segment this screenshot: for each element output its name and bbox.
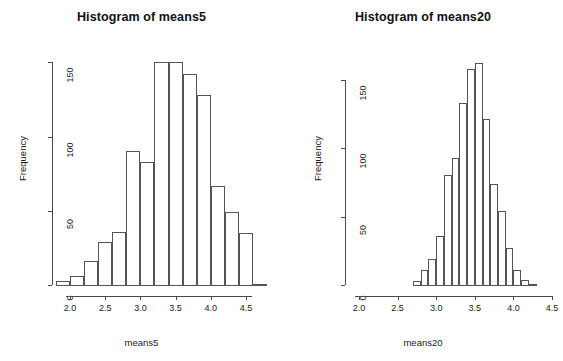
x-axis-tick: [246, 296, 247, 300]
x-axis-tick: [211, 296, 212, 300]
y-axis-tick: [48, 211, 52, 212]
x-axis-tick-label: 2.0: [345, 303, 373, 313]
x-axis-tick-label: 2.0: [56, 303, 84, 313]
histogram-bar: [452, 158, 460, 285]
plot-title-means5: Histogram of means5: [0, 10, 283, 24]
histogram-bar: [498, 211, 506, 285]
histogram-bar: [444, 175, 452, 285]
y-axis-line: [345, 80, 346, 285]
histogram-bar: [70, 276, 84, 285]
histogram-bar: [84, 261, 98, 285]
x-axis-tick-label: 3.5: [461, 303, 489, 313]
figure-canvas: Histogram of means5 Frequency means5 050…: [0, 0, 563, 361]
x-axis-tick: [398, 296, 399, 300]
x-axis-tick: [70, 296, 71, 300]
histogram-bar: [126, 151, 140, 285]
x-axis-tick: [105, 296, 106, 300]
histogram-bar: [140, 162, 154, 285]
x-axis-tick-label: 4.5: [232, 303, 260, 313]
y-axis-tick: [341, 148, 345, 149]
y-axis-line: [52, 62, 53, 285]
x-axis-tick-label: 3.0: [422, 303, 450, 313]
histogram-bar: [225, 212, 239, 285]
x-axis-tick: [176, 296, 177, 300]
x-axis-tick: [140, 296, 141, 300]
y-axis-tick: [341, 80, 345, 81]
histogram-bar: [98, 242, 112, 285]
histogram-bar: [459, 103, 467, 285]
y-axis-tick: [48, 62, 52, 63]
x-axis-tick-label: 3.0: [126, 303, 154, 313]
histogram-bar: [475, 63, 483, 285]
y-axis-tick-label: 150: [357, 80, 369, 106]
x-axis-tick-label: 2.5: [91, 303, 119, 313]
y-axis-tick-label: 100: [64, 137, 76, 163]
x-axis-tick: [552, 296, 553, 300]
histogram-bar: [436, 236, 444, 285]
x-axis-line: [66, 296, 252, 297]
plot-baseline-means20: [413, 285, 537, 286]
histogram-bar: [467, 69, 475, 285]
y-axis-tick-label: 150: [64, 62, 76, 88]
x-axis-line: [355, 296, 552, 297]
x-axis-label-means5: means5: [0, 337, 283, 348]
histogram-bar: [490, 184, 498, 285]
histogram-bar: [506, 248, 514, 285]
histogram-bar: [239, 233, 253, 285]
histogram-bar: [183, 74, 197, 285]
plot-panel-means5: Histogram of means5 Frequency means5 050…: [0, 0, 283, 361]
y-axis-tick: [48, 285, 52, 286]
histogram-bar: [483, 119, 491, 285]
bar-series-means20: [283, 55, 563, 285]
x-axis-tick: [436, 296, 437, 300]
histogram-bar: [428, 259, 436, 285]
bar-series-means5: [0, 55, 283, 285]
histogram-bar: [169, 62, 183, 285]
y-axis-tick: [341, 217, 345, 218]
histogram-bar: [421, 270, 429, 285]
x-axis-tick: [359, 296, 360, 300]
x-axis-tick-label: 4.5: [538, 303, 563, 313]
histogram-bar: [112, 232, 126, 285]
x-axis-tick: [513, 296, 514, 300]
x-axis-tick-label: 3.5: [162, 303, 190, 313]
x-axis-tick: [475, 296, 476, 300]
histogram-bar: [513, 270, 521, 285]
histogram-bar: [211, 186, 225, 285]
x-axis-tick-label: 4.0: [197, 303, 225, 313]
x-axis-label-means20: means20: [283, 337, 563, 348]
x-axis-tick-label: 4.0: [499, 303, 527, 313]
y-axis-tick-label: 50: [357, 217, 369, 243]
x-axis-tick-label: 2.5: [384, 303, 412, 313]
plot-title-means20: Histogram of means20: [283, 10, 563, 24]
histogram-bar: [197, 95, 211, 285]
y-axis-tick-label: 50: [64, 211, 76, 237]
y-axis-tick: [341, 285, 345, 286]
plot-baseline-means5: [56, 285, 267, 286]
histogram-bar: [154, 62, 168, 285]
plot-panel-means20: Histogram of means20 Frequency means20 0…: [283, 0, 563, 361]
y-axis-tick-label: 100: [357, 148, 369, 174]
y-axis-tick: [48, 137, 52, 138]
